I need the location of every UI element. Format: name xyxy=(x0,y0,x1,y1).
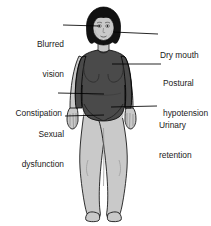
anticholinergic-side-effects-figure: Blurred vision Dry mouth Postural hypote… xyxy=(0,0,211,226)
garment-group xyxy=(75,50,132,121)
label-sexual-dysfunction: Sexual dysfunction xyxy=(4,109,64,189)
right-foot xyxy=(107,212,121,222)
label-urinary-retention-line2: retention xyxy=(159,150,209,160)
label-blurred-vision: Blurred vision xyxy=(16,19,64,99)
label-blurred-vision-line2: vision xyxy=(16,69,64,79)
label-postural-hypotension-line1: Postural xyxy=(163,78,211,88)
label-urinary-retention: Urinary retention xyxy=(159,100,209,180)
label-sexual-dysfunction-line2: dysfunction xyxy=(4,159,64,169)
left-hand xyxy=(67,108,78,129)
right-pupil xyxy=(107,25,109,27)
label-sexual-dysfunction-line1: Sexual xyxy=(4,129,64,139)
right-hand xyxy=(125,108,136,129)
label-urinary-retention-line1: Urinary xyxy=(159,120,209,130)
label-blurred-vision-line1: Blurred xyxy=(16,39,64,49)
left-foot xyxy=(86,212,100,222)
